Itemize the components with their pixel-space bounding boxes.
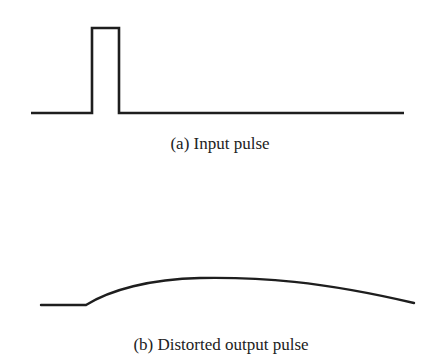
output-pulse-waveform [41,278,414,305]
input-pulse-caption: (a) Input pulse [170,134,269,153]
output-pulse-caption: (b) Distorted output pulse [133,335,308,354]
input-pulse-waveform [31,28,404,113]
output-pulse-panel: (b) Distorted output pulse [41,278,414,354]
pulse-diagram: (a) Input pulse (b) Distorted output pul… [0,0,445,360]
input-pulse-panel: (a) Input pulse [31,28,404,153]
